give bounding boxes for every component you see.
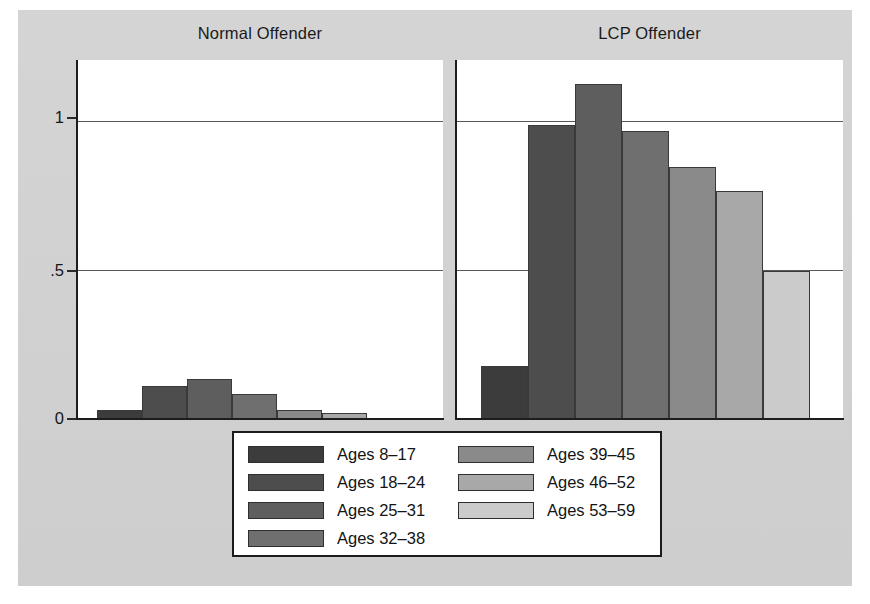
legend: Ages 8–17Ages 18–24Ages 25–31Ages 32–38 … (232, 431, 662, 557)
bar-1-1 (528, 125, 575, 419)
plot-area-normal-offender (77, 60, 443, 419)
legend-item: Ages 25–31 (248, 497, 425, 524)
bar-1-0 (481, 366, 528, 419)
legend-column-left: Ages 8–17Ages 18–24Ages 25–31Ages 32–38 (248, 441, 425, 553)
plot-panel-lcp-offender (456, 60, 843, 419)
gridline-1 (456, 121, 843, 122)
bar-0-3 (232, 394, 277, 419)
y-tick-label-half: .5 (18, 261, 64, 280)
panel-title-lcp-offender: LCP Offender (456, 24, 843, 43)
y-tick-mark-1 (67, 117, 76, 119)
legend-item: Ages 32–38 (248, 525, 425, 552)
figure-root: Normal Offender LCP Offender 1 .5 0 Ages… (0, 0, 870, 604)
x-axis-line-lcp-offender (455, 418, 844, 420)
bar-0-1 (142, 386, 187, 419)
legend-swatch-icon (458, 446, 534, 463)
legend-swatch-icon (458, 502, 534, 519)
legend-item: Ages 46–52 (458, 469, 635, 496)
bar-1-5 (716, 191, 763, 419)
legend-item: Ages 53–59 (458, 497, 635, 524)
y-tick-mark-half (67, 270, 76, 272)
legend-item: Ages 39–45 (458, 441, 635, 468)
legend-item: Ages 18–24 (248, 469, 425, 496)
gridline-0-5 (77, 270, 443, 271)
panel-title-normal-offender: Normal Offender (77, 24, 443, 43)
bar-1-3 (622, 131, 669, 419)
legend-item-label: Ages 32–38 (337, 529, 425, 548)
y-tick-mark-zero (67, 418, 76, 420)
legend-swatch-icon (458, 474, 534, 491)
legend-item-label: Ages 18–24 (337, 473, 425, 492)
legend-column-right: Ages 39–45Ages 46–52Ages 53–59 (458, 441, 635, 525)
legend-swatch-icon (248, 502, 324, 519)
bar-0-2 (187, 379, 232, 419)
bar-1-4 (669, 167, 716, 419)
legend-swatch-icon (248, 530, 324, 547)
x-axis-line-normal-offender (76, 418, 444, 420)
bar-1-2 (575, 84, 622, 419)
legend-item-label: Ages 46–52 (547, 473, 635, 492)
y-axis-line (76, 60, 78, 419)
legend-item: Ages 8–17 (248, 441, 425, 468)
legend-swatch-icon (248, 474, 324, 491)
plot-panel-normal-offender (77, 60, 443, 419)
legend-item-label: Ages 39–45 (547, 445, 635, 464)
legend-swatch-icon (248, 446, 324, 463)
legend-item-label: Ages 25–31 (337, 501, 425, 520)
plot-area-lcp-offender (456, 60, 843, 419)
bar-1-6 (763, 271, 810, 419)
y-tick-label-zero: 0 (18, 409, 64, 428)
legend-item-label: Ages 8–17 (337, 445, 416, 464)
legend-item-label: Ages 53–59 (547, 501, 635, 520)
y-axis-line-right-panel (455, 60, 457, 419)
gridline-1 (77, 121, 443, 122)
y-tick-label-1: 1 (18, 108, 64, 127)
